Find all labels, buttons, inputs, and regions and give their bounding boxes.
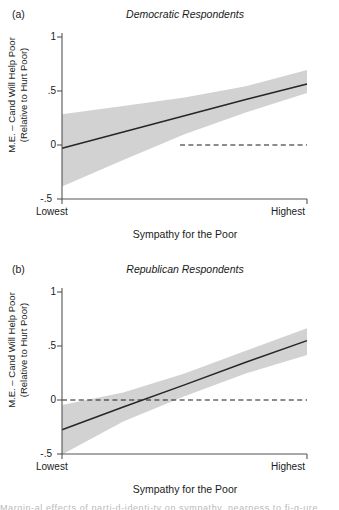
panel-b-confidence-band — [62, 328, 307, 454]
panel-b-xtick-highest: Highest — [271, 461, 305, 472]
panel-b: (b) Republican Respondents M.E. – Cand W… — [0, 255, 339, 503]
panel-b-xtick-lowest: Lowest — [36, 461, 68, 472]
panel-a-xtick-highest: Highest — [271, 206, 305, 217]
caption-fragment: Margin-al effects of parti-d-identi-ty o… — [0, 503, 339, 510]
panel-a-xtick-lowest: Lowest — [36, 206, 68, 217]
panel-a-x-axis-title: Sympathy for the Poor — [62, 228, 308, 240]
panel-a: (a) Democratic Respondents M.E. – Cand W… — [0, 0, 339, 248]
figure-two-panel-marginal-effects: (a) Democratic Respondents M.E. – Cand W… — [0, 0, 339, 510]
panel-a-confidence-band — [62, 70, 307, 187]
panel-b-estimate-line — [62, 341, 307, 430]
panel-b-x-axis-title: Sympathy for the Poor — [62, 483, 308, 495]
